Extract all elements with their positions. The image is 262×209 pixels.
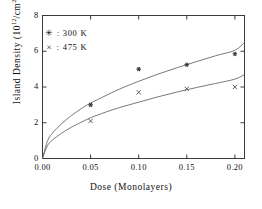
legend-entry-300k: ✳ : 300 K <box>45 28 87 38</box>
data-point-475k <box>88 119 92 123</box>
y-tick-label: 0 <box>29 153 39 163</box>
data-point-300k <box>136 67 141 71</box>
chart-figure: Island Density (1012/cm2) Dose (Monolaye… <box>0 0 262 209</box>
y-tick-label: 2 <box>29 117 39 127</box>
x-tick-label: 0.00 <box>29 162 57 172</box>
data-point-475k <box>137 90 141 94</box>
x-tick-label: 0.05 <box>77 162 105 172</box>
x-tick-label: 0.15 <box>173 162 201 172</box>
x-tick-label: 0.10 <box>125 162 153 172</box>
data-point-475k <box>233 85 237 89</box>
x-axis-label: Dose (Monolayers) <box>0 182 262 192</box>
y-axis-label: Island Density (1012/cm2) <box>10 0 22 104</box>
y-tick-label: 8 <box>29 10 39 20</box>
fit-curves <box>43 42 245 158</box>
legend-entry-475k: × : 475 K <box>45 42 87 52</box>
data-point-475k <box>185 87 189 91</box>
legend-label-300k: : 300 K <box>57 28 87 38</box>
legend-label-475k: : 475 K <box>57 42 87 52</box>
plot-canvas <box>0 0 262 209</box>
data-point-300k <box>184 63 189 67</box>
fit-curve-475k <box>43 74 245 158</box>
data-point-300k <box>233 52 238 56</box>
asterisk-marker-icon: ✳ <box>45 28 54 38</box>
x-tick-label: 0.20 <box>221 162 249 172</box>
y-axis-label-wrapper: Island Density (1012/cm2) <box>6 0 20 125</box>
cross-marker-icon: × <box>45 42 54 52</box>
data-points <box>88 52 237 123</box>
y-tick-label: 6 <box>29 45 39 55</box>
y-tick-label: 4 <box>29 81 39 91</box>
